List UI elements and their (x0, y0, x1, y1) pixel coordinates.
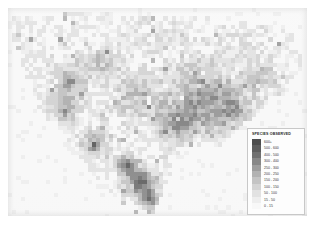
legend-label: 0 - 15 (264, 203, 273, 209)
legend-entry-list: 600+500 - 600400 - 500300 - 400250 - 300… (252, 139, 301, 209)
map-legend: SPECIES OBSERVED 600+500 - 600400 - 5003… (247, 128, 305, 215)
legend-swatch (252, 203, 261, 209)
legend-title: SPECIES OBSERVED (252, 132, 301, 137)
legend-entry: 0 - 15 (252, 203, 301, 209)
figure-container: SPECIES OBSERVED 600+500 - 600400 - 5003… (0, 0, 315, 229)
